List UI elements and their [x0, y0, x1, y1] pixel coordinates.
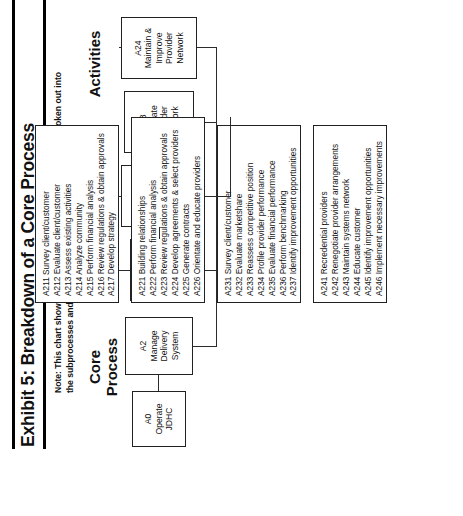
exhibit-diagram: Exhibit 5: Breakdown of a Core Process N…	[12, 0, 452, 449]
activity-item: A231 Survey client/customer	[223, 132, 234, 296]
connector-a22-activities-h	[159, 227, 160, 239]
box-a24[interactable]: A24 Maintain & Improve Provider Network	[121, 17, 197, 79]
activity-box-a24[interactable]: A241 Recredential providers A242 Renegot…	[313, 125, 387, 303]
activity-box-a21[interactable]: A211 Survey client/customer A212 Evaluat…	[35, 125, 119, 303]
connector-a22-up	[205, 196, 231, 197]
activity-item: A236 Perform benchmarking	[278, 132, 289, 296]
box-a2-name: Manage Delivery System	[149, 330, 181, 361]
box-a0-name: Operate JDHC	[154, 403, 175, 434]
activity-item: A233 Reassess competitive position	[245, 132, 256, 296]
connector-a0-a2	[158, 375, 159, 391]
activity-item: A234 Profile provider performance	[256, 132, 267, 296]
activity-item: A217 Develop strategy	[106, 132, 117, 296]
activity-item: A216 Review regulations & obtain approva…	[96, 132, 107, 296]
box-a0[interactable]: A0 Operate JDHC	[132, 391, 186, 447]
column-header-activities: Activities	[86, 0, 103, 139]
activity-item: A214 Analyze community	[74, 132, 85, 296]
connector-a21-up	[119, 270, 130, 271]
box-a0-code: A0	[143, 414, 154, 425]
connector-a24-activities-v	[119, 47, 121, 48]
activity-item: A224 Develop agreements & select provide…	[170, 124, 181, 296]
connector-bus-a24	[197, 47, 217, 48]
activity-item: A232 Evaluate marketshare	[234, 132, 245, 296]
box-a24-name: Maintain & Improve Provider Network	[143, 28, 185, 69]
activity-item: A215 Perform financial analysis	[85, 132, 96, 296]
activity-item: A221 Building relationships	[137, 124, 148, 296]
activity-item: A213 Assess existing activities	[63, 132, 74, 296]
activity-item: A245 Identify improvement opportunities	[363, 132, 374, 296]
activity-box-a22[interactable]: A221 Building relationships A222 Perform…	[131, 117, 205, 303]
connector-a22-across	[230, 117, 231, 197]
activity-item: A237 Identify improvement opportunities	[288, 132, 299, 296]
box-a2[interactable]: A2 Manage Delivery System	[125, 317, 193, 375]
activity-item: A226 Orientate and educate providers	[192, 124, 203, 296]
box-a24-code: A24	[133, 40, 144, 55]
connector-a22-riser	[119, 196, 121, 197]
activity-item: A211 Survey client/customer	[41, 132, 52, 296]
activity-item: A223 Review regulations & obtain approva…	[159, 124, 170, 296]
activity-item: A241 Recredential providers	[319, 132, 330, 296]
rotated-canvas: Exhibit 5: Breakdown of a Core Process N…	[0, 0, 463, 463]
column-header-core-process: Core Process	[86, 319, 120, 415]
box-a2-code: A2	[138, 341, 149, 352]
connector-a2-down	[193, 346, 217, 347]
activity-item: A244 Educate customer	[352, 132, 363, 296]
activity-item: A246 Implement necessary improvements	[374, 132, 385, 296]
activity-item: A242 Renegotiate provider arrangements	[330, 132, 341, 296]
title-rule-top	[12, 0, 15, 449]
exhibit-page: Exhibit 5: Breakdown of a Core Process N…	[0, 0, 463, 516]
activity-item: A212 Evaluate client/customer	[52, 132, 63, 296]
activity-item: A243 Maintain systems network	[341, 132, 352, 296]
activity-item: A225 Generate contracts	[181, 124, 192, 296]
activity-item: A222 Perform financial analysis	[148, 124, 159, 296]
activity-item: A235 Evaluate financial performance	[267, 132, 278, 296]
